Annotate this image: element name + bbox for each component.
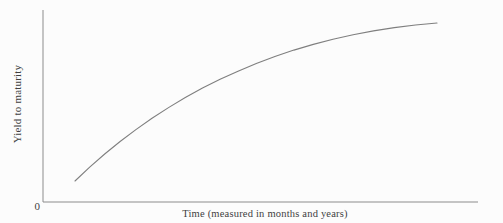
yield-curve-figure: 0 Yield to maturity Time (measured in mo… — [0, 0, 503, 223]
yield-curve-chart: 0 Yield to maturity Time (measured in mo… — [0, 0, 503, 223]
x-axis-label: Time (measured in months and years) — [182, 208, 348, 220]
yield-curve — [75, 23, 437, 181]
y-axis-label: Yield to maturity — [11, 64, 23, 143]
origin-tick-label: 0 — [35, 200, 41, 212]
